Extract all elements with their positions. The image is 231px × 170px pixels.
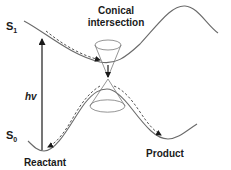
conical-intersection-label-line2: intersection	[88, 17, 145, 28]
s1-label: S1	[6, 20, 17, 34]
conical-intersection-diagram: S1 S0 hv Conical intersection Reactant P…	[0, 0, 231, 170]
s1-relaxation-path	[46, 31, 100, 60]
to-product-path	[114, 86, 161, 135]
product-label: Product	[146, 148, 184, 159]
reactant-label: Reactant	[24, 157, 67, 168]
s0-label: S0	[6, 129, 17, 143]
s0-surface-curve	[28, 89, 197, 151]
conical-intersection-label-line1: Conical	[98, 5, 134, 16]
excitation-label: hv	[25, 91, 38, 102]
